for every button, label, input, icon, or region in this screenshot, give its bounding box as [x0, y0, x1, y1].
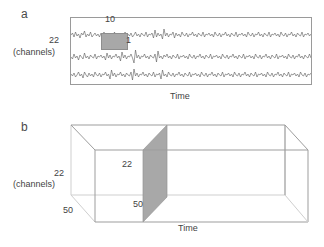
- panel-a-time-axis-label: Time: [170, 92, 190, 101]
- panel-b-channel-count-label: 22: [54, 169, 64, 178]
- panel-b-volume-diagram: [0, 110, 324, 235]
- eeg-trace-1: [71, 24, 312, 46]
- panel-b-channels-unit-label: (channels): [13, 180, 55, 189]
- panel-a-plot-box: [70, 17, 312, 85]
- panel-b-time-axis-label: Time: [178, 224, 198, 233]
- panel-a-window-height-label: 1: [126, 36, 131, 45]
- panel-a-channel-count-label: 22: [49, 36, 59, 45]
- eeg-trace-3: [71, 64, 312, 85]
- panel-a-window-width-label: 10: [105, 15, 115, 24]
- panel-a-letter: a: [21, 8, 28, 20]
- figure-container: a 22 (channels) 10 1 T: [0, 0, 324, 247]
- panel-b-slice-height-label: 22: [122, 160, 132, 169]
- panel-a-channels-unit-label: (channels): [13, 48, 55, 57]
- panel-b-depth-axis-label: 50: [63, 206, 73, 215]
- panel-b-slice-depth-label: 50: [133, 200, 143, 209]
